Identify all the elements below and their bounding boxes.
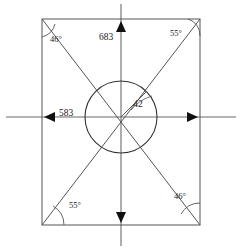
horizontal-axis-label: 583 xyxy=(59,108,74,118)
axis-arrow-down-icon xyxy=(116,212,126,223)
angle-label-top-left: 46° xyxy=(50,34,62,44)
angle-label-bottom-right: 46° xyxy=(174,191,186,201)
diagram-canvas: 683 583 42 46° 55° 55° 46° xyxy=(0,0,241,250)
geometry-figure: 683 583 42 46° 55° 55° 46° xyxy=(0,0,241,250)
angle-label-top-right: 55° xyxy=(170,28,182,38)
axis-arrow-up-icon xyxy=(116,21,126,32)
axis-arrow-right-icon xyxy=(187,112,198,122)
angle-label-bottom-left: 55° xyxy=(69,200,81,210)
vertical-axis-label: 683 xyxy=(99,32,114,42)
radius-label: 42 xyxy=(133,99,143,109)
axis-arrow-left-icon xyxy=(44,112,55,122)
